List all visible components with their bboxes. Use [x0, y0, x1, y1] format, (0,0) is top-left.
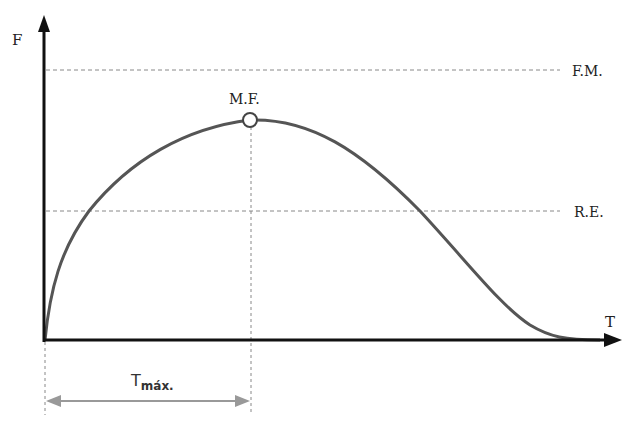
- max-force-label: M.F.: [229, 91, 260, 107]
- tmax-right-arrow-icon: [235, 395, 250, 407]
- fm-label: F.M.: [572, 63, 603, 79]
- force-curve: [45, 120, 600, 340]
- tmax-label: Tmáx.: [130, 371, 174, 393]
- y-axis-arrow-icon: [38, 15, 50, 32]
- tmax-left-arrow-icon: [46, 395, 61, 407]
- y-axis-label: F: [12, 31, 22, 49]
- force-time-diagram: F T M.F. F.M. R.E. Tmáx.: [0, 0, 640, 433]
- x-axis-arrow-icon: [604, 333, 622, 347]
- x-axis-label: T: [605, 313, 615, 331]
- re-label: R.E.: [574, 204, 604, 220]
- max-force-marker: [243, 113, 257, 127]
